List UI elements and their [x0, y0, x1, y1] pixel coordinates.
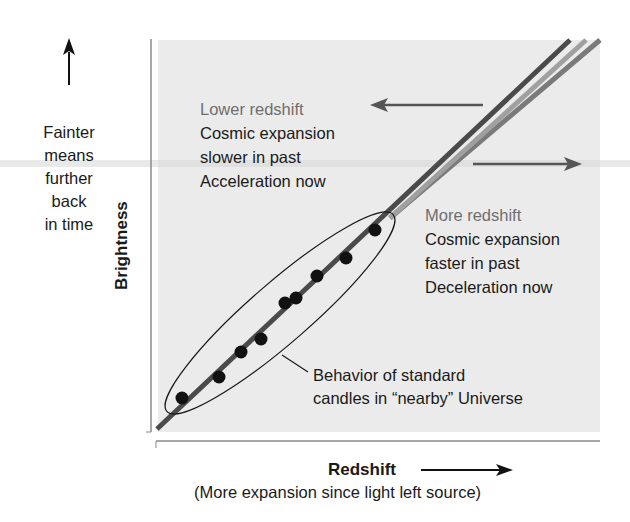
- nearby-annotation: Behavior of standard candles in “nearby”…: [313, 364, 523, 410]
- x-axis-label: Redshift: [328, 460, 396, 480]
- up-arrow-icon: [63, 38, 75, 85]
- data-point: [213, 371, 226, 384]
- annotation-line: Deceleration now: [425, 275, 560, 299]
- data-point: [235, 346, 248, 359]
- annotation-line: slower in past: [200, 145, 335, 169]
- annotation-line: Behavior of standard: [313, 364, 523, 387]
- data-point: [176, 392, 189, 405]
- lower-redshift-title: Lower redshift: [200, 97, 335, 121]
- note-line: further: [30, 167, 108, 190]
- x-axis-sublabel: (More expansion since light left source): [194, 483, 481, 503]
- more-redshift-title: More redshift: [425, 203, 560, 227]
- fainter-note: Fainter means further back in time: [30, 121, 108, 236]
- note-line: back: [30, 190, 108, 213]
- y-axis-label: Brightness: [112, 201, 132, 290]
- data-point: [290, 292, 303, 305]
- more-redshift-annotation: More redshift Cosmic expansion faster in…: [425, 203, 560, 299]
- data-point: [311, 270, 324, 283]
- annotation-line: Acceleration now: [200, 169, 335, 193]
- annotation-line: Cosmic expansion: [425, 227, 560, 251]
- note-line: in time: [30, 213, 108, 236]
- annotation-line: candles in “nearby” Universe: [313, 387, 523, 410]
- lower-redshift-annotation: Lower redshift Cosmic expansion slower i…: [200, 97, 335, 193]
- x-axis-right-arrow-icon: [421, 464, 513, 476]
- annotation-line: Cosmic expansion: [200, 121, 335, 145]
- data-point: [340, 252, 353, 265]
- data-point: [369, 224, 382, 237]
- note-line: Fainter: [30, 121, 108, 144]
- annotation-line: faster in past: [425, 251, 560, 275]
- data-point: [255, 333, 268, 346]
- note-line: means: [30, 144, 108, 167]
